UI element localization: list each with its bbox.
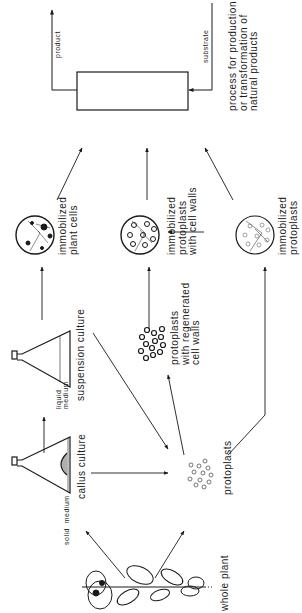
process-box bbox=[77, 72, 188, 110]
label-solid-medium: solid medium bbox=[63, 495, 70, 545]
label-immobilized-protoplasts: immobilized protoplasts bbox=[278, 197, 299, 255]
label-liquid-medium: liquid medium bbox=[55, 381, 70, 409]
whole-plant-icon bbox=[82, 562, 212, 609]
diagram-frame: whole plant solid medium callus culture … bbox=[0, 0, 302, 613]
label-immobilized-plant-cells: immobilized plant cells bbox=[58, 197, 79, 255]
regenerated-protoplasts-icon bbox=[139, 327, 166, 361]
label-process: process for production or transformation… bbox=[228, 1, 260, 111]
label-protoplasts-regenerated: protoplasts with regenerated cell walls bbox=[170, 283, 202, 366]
immobilized-protoplasts-icon bbox=[236, 216, 274, 254]
label-immobilized-protoplasts-cell-walls: immobilized protoplasts with cell walls bbox=[167, 187, 199, 255]
label-protoplasts: protoplasts bbox=[223, 441, 234, 495]
immobilized-protoplasts-cell-walls-icon bbox=[121, 216, 159, 254]
label-product: product bbox=[54, 31, 61, 58]
protoplasts-dots-icon bbox=[188, 459, 213, 489]
label-callus-culture: callus culture bbox=[77, 434, 88, 499]
suspension-flask-icon bbox=[12, 331, 70, 387]
callus-flask-icon bbox=[12, 437, 70, 493]
label-suspension-culture: suspension culture bbox=[76, 309, 87, 401]
immobilized-plant-cells-icon bbox=[16, 216, 54, 254]
label-substrate: substrate bbox=[202, 30, 209, 63]
label-whole-plant: whole plant bbox=[220, 555, 231, 611]
